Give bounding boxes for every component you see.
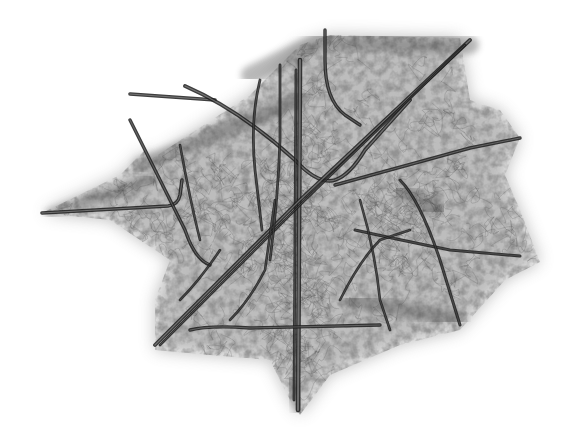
abstract-network-artwork [0,0,574,445]
